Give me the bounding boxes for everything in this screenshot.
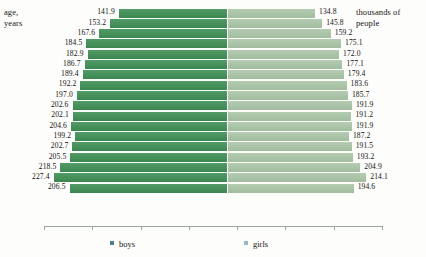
bar-label-boys: 189.4 [39, 69, 79, 79]
bar-girls [228, 39, 341, 48]
bar-girls [228, 132, 349, 141]
legend-label-boys: boys [119, 239, 135, 249]
bar-boys [70, 153, 227, 162]
bar-label-girls: 172.0 [343, 49, 383, 59]
bar-label-girls: 145.8 [326, 18, 366, 28]
bar-girls [228, 163, 360, 172]
bar-label-girls: 191.9 [356, 100, 396, 110]
bar-label-boys: 202.7 [28, 141, 68, 151]
bar-girls [228, 101, 352, 110]
bar-label-boys: 184.5 [42, 38, 82, 48]
bar-boys [72, 142, 227, 151]
bar-label-boys: 141.9 [75, 7, 115, 17]
axis-tick [141, 226, 142, 230]
population-pyramid-chart: age, years thousands of people 141.9134.… [0, 0, 426, 257]
bar-girls [228, 173, 366, 182]
bar-label-boys: 167.6 [55, 28, 95, 38]
bar-boys [83, 70, 227, 79]
axis-tick [92, 226, 93, 230]
bar-label-boys: 197.0 [33, 90, 73, 100]
pyramid-row: 205.5193.2 [0, 152, 426, 162]
bar-label-girls: 159.2 [335, 28, 375, 38]
bar-boys [75, 132, 227, 141]
legend-label-girls: girls [253, 239, 268, 249]
bar-label-girls: 191.9 [356, 121, 396, 131]
bar-boys [119, 9, 227, 18]
bar-girls [228, 9, 315, 18]
bar-label-boys: 227.4 [10, 172, 50, 182]
bar-boys [60, 163, 227, 172]
x-axis-line [44, 226, 382, 227]
bar-label-girls: 185.7 [352, 90, 392, 100]
axis-tick [382, 226, 383, 230]
bar-label-girls: 193.2 [357, 152, 397, 162]
bar-label-girls: 191.5 [356, 141, 396, 151]
plot-area: 141.9134.8153.2145.8167.6159.2184.5175.1… [0, 8, 426, 223]
bar-label-boys: 202.6 [29, 100, 69, 110]
bar-label-girls: 191.2 [355, 110, 395, 120]
legend-item-girls[interactable]: girls [244, 238, 268, 249]
bar-label-girls: 187.2 [353, 131, 393, 141]
pyramid-row: 206.5194.6 [0, 183, 426, 193]
bar-label-girls: 134.8 [319, 7, 359, 17]
bar-label-boys: 182.9 [44, 49, 84, 59]
bar-label-boys: 153.2 [66, 18, 106, 28]
bar-girls [228, 60, 342, 69]
bar-girls [228, 50, 339, 59]
bar-girls [228, 91, 348, 100]
bar-girls [228, 142, 352, 151]
bar-boys [80, 81, 227, 90]
bar-label-girls: 179.4 [348, 69, 388, 79]
bar-label-boys: 204.6 [27, 121, 67, 131]
axis-tick [237, 226, 238, 230]
chart-legend: boys girls [0, 236, 426, 254]
bar-label-boys: 202.1 [29, 110, 69, 120]
bar-boys [77, 91, 227, 100]
bar-label-boys: 192.2 [36, 79, 76, 89]
bar-boys [73, 112, 227, 121]
bar-boys [70, 184, 227, 193]
pyramid-row: 218.5204.9 [0, 162, 426, 172]
bar-girls [228, 184, 354, 193]
bar-label-girls: 214.1 [370, 172, 410, 182]
bar-label-boys: 186.7 [41, 59, 81, 69]
bar-boys [85, 60, 227, 69]
bar-boys [54, 173, 227, 182]
bar-boys [86, 39, 227, 48]
bar-girls [228, 19, 322, 28]
axis-tick [285, 226, 286, 230]
bar-label-boys: 218.5 [16, 162, 56, 172]
bar-boys [110, 19, 227, 28]
legend-marker-girls [244, 241, 248, 245]
axis-tick [334, 226, 335, 230]
bar-girls [228, 122, 352, 131]
bar-label-girls: 177.1 [346, 59, 386, 69]
bar-girls [228, 81, 347, 90]
bar-girls [228, 70, 344, 79]
axis-tick [44, 226, 45, 230]
bar-label-boys: 205.5 [26, 152, 66, 162]
bar-label-girls: 175.1 [345, 38, 385, 48]
bar-label-boys: 199.2 [31, 131, 71, 141]
bar-girls [228, 29, 331, 38]
legend-item-boys[interactable]: boys [110, 238, 135, 249]
bar-boys [73, 101, 227, 110]
bar-label-girls: 194.6 [358, 182, 398, 192]
bar-girls [228, 153, 353, 162]
bar-label-boys: 206.5 [26, 182, 66, 192]
bar-boys [71, 122, 227, 131]
axis-tick [189, 226, 190, 230]
bar-boys [99, 29, 227, 38]
bar-girls [228, 112, 351, 121]
bar-label-girls: 204.9 [364, 162, 404, 172]
bar-boys [88, 50, 227, 59]
legend-marker-boys [110, 241, 114, 245]
bar-label-girls: 183.6 [351, 79, 391, 89]
